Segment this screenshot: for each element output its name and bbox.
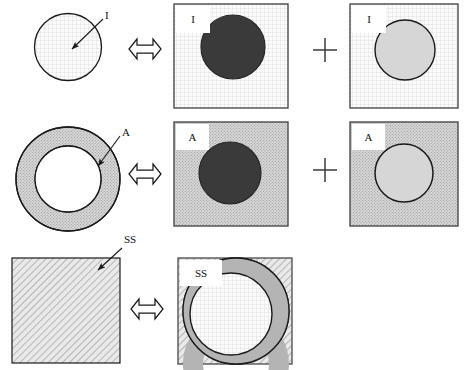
panel-label-row1-right: I — [352, 6, 386, 33]
equivalence-arrow-icon-row3 — [130, 298, 164, 320]
equivalence-arrow-icon-row1 — [128, 38, 162, 60]
panel-label-row3-middle: SS — [180, 260, 222, 286]
plus-operator-icon-row1 — [312, 37, 338, 63]
row-2-left-annulus — [16, 127, 120, 231]
row-3-left-square — [12, 258, 120, 363]
figure-canvas: I A SS I I A A SS — [0, 0, 471, 370]
row-1-left-circle — [35, 14, 102, 81]
equivalence-arrow-icon-row2 — [128, 163, 162, 185]
figure-vector-layer — [0, 0, 471, 370]
panel-label-row2-right: A — [352, 124, 385, 150]
callout-label-solid-section: SS — [124, 234, 136, 245]
callout-label-inner: I — [105, 10, 109, 21]
panel-label-row2-middle: A — [176, 124, 209, 150]
panel-label-row1-middle: I — [176, 6, 210, 33]
callout-label-annulus: A — [122, 127, 130, 138]
plus-operator-icon-row2 — [312, 157, 338, 183]
